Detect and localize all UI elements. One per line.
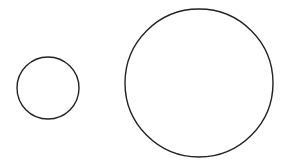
small-circle <box>17 57 79 119</box>
large-circle <box>125 9 273 157</box>
diagram-canvas <box>0 0 289 163</box>
